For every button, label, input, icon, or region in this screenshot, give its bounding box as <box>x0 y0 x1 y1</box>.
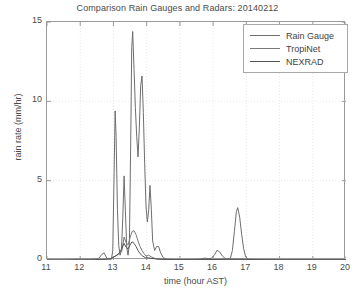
legend-label-rain-gauge: Rain Gauge <box>286 31 334 41</box>
y-tick-label-15: 15 <box>2 16 42 25</box>
legend-swatch-tropinet <box>250 48 280 49</box>
x-tick-label-17: 17 <box>231 262 259 272</box>
x-tick-label-12: 12 <box>65 262 93 272</box>
legend-item-tropinet[interactable]: TropiNet <box>244 42 347 55</box>
chart-title: Comparison Rain Gauges and Radars: 20140… <box>0 3 355 13</box>
legend-label-tropinet: TropiNet <box>286 44 320 54</box>
y-axis-label: rain rate (mm/hr) <box>13 57 23 197</box>
series-line-nexrad <box>47 242 346 260</box>
series-line-tropinet <box>47 231 346 260</box>
legend-label-nexrad: NEXRAD <box>286 57 324 67</box>
chart-figure: Comparison Rain Gauges and Radars: 20140… <box>0 0 355 296</box>
x-tick-label-11: 11 <box>32 262 60 272</box>
chart-legend: Rain Gauge TropiNet NEXRAD <box>243 24 348 73</box>
x-axis-label: time (hour AST) <box>46 276 345 286</box>
x-tick-label-13: 13 <box>98 262 126 272</box>
x-tick-label-18: 18 <box>265 262 293 272</box>
x-tick-label-20: 20 <box>331 262 355 272</box>
x-tick-label-16: 16 <box>198 262 226 272</box>
x-tick-label-15: 15 <box>165 262 193 272</box>
x-tick-label-19: 19 <box>298 262 326 272</box>
legend-swatch-nexrad <box>250 61 280 62</box>
legend-item-nexrad[interactable]: NEXRAD <box>244 55 347 68</box>
x-tick-label-14: 14 <box>132 262 160 272</box>
legend-swatch-rain-gauge <box>250 35 280 36</box>
legend-item-rain-gauge[interactable]: Rain Gauge <box>244 29 347 42</box>
